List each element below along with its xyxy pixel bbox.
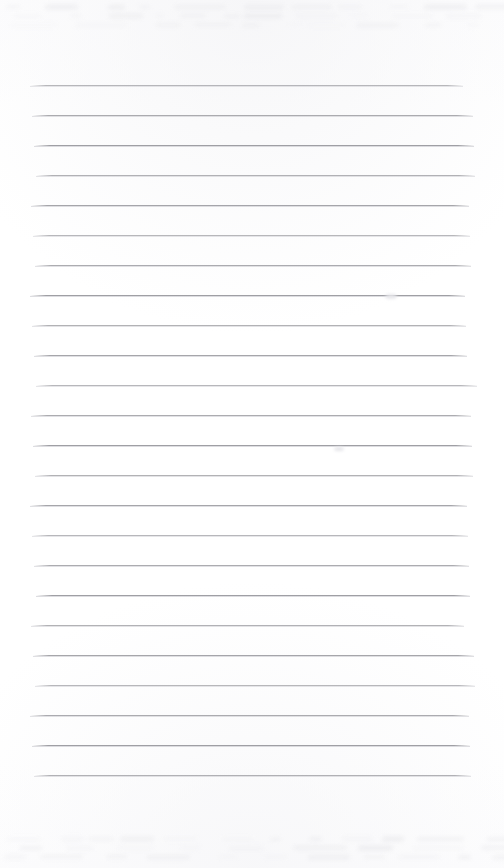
ghost-stroke-row — [0, 852, 504, 861]
ghost-stroke-row — [0, 20, 504, 29]
ghost-stroke-row — [0, 843, 504, 852]
ghost-stroke-row — [0, 11, 504, 20]
notebook-page — [0, 0, 504, 868]
ghost-stroke-row — [0, 2, 504, 11]
top-ghost-marks — [0, 2, 504, 30]
ghost-stroke-row — [0, 834, 504, 843]
writing-area[interactable] — [33, 70, 470, 788]
bottom-ghost-marks — [0, 834, 504, 864]
